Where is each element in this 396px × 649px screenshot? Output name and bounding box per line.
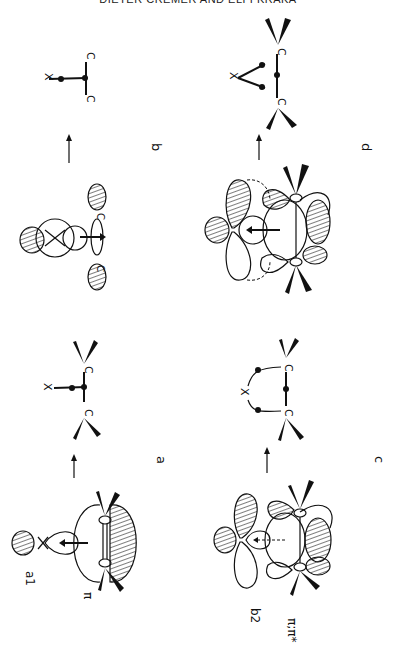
- atom-c: [99, 559, 111, 567]
- panel-label-c: c: [372, 456, 387, 463]
- panel-d-orbitals: [205, 164, 330, 294]
- reaction-arrow: [264, 447, 270, 473]
- panel-c: b2 π;π* X C C c: [214, 338, 387, 643]
- pi-lobe-hatched: [110, 505, 136, 582]
- atom-c: C: [82, 409, 95, 417]
- panel-label-a: a: [154, 456, 169, 464]
- panel-b-orbitals: C C: [20, 184, 106, 290]
- atom-c: C: [275, 98, 288, 106]
- x-b2-lobe-hatched: [234, 494, 257, 538]
- c-lobe-hatched: [268, 501, 294, 519]
- atom-c: C: [84, 95, 97, 103]
- panel-d: X C C d: [205, 18, 374, 294]
- panel-c-structure: X C C: [238, 338, 304, 441]
- reaction-arrow: [256, 134, 262, 160]
- atom-c: C: [95, 213, 106, 220]
- reaction-arrow: [71, 454, 77, 478]
- c-back-lobe: [88, 264, 106, 290]
- orbital-label-a1: a1: [23, 571, 37, 586]
- c-lobe-hatched: [303, 246, 327, 264]
- panel-a-structure: X C C: [41, 340, 101, 440]
- atom-c: [294, 509, 306, 517]
- x-p-lobe: [226, 232, 250, 280]
- pi-star-lobe-hatched: [306, 200, 330, 244]
- x-back-lobe: [12, 531, 34, 555]
- c-back-lobe: [88, 184, 106, 210]
- orbital-label-pi: π: [81, 592, 95, 599]
- atom-c: [99, 516, 111, 524]
- atom-c: [294, 563, 306, 571]
- x-back-lobe: [20, 227, 44, 253]
- atom-c: C: [282, 409, 295, 417]
- orbital-label-b2: b2: [248, 608, 262, 623]
- atom-c: C: [84, 52, 97, 60]
- c-lobe-hatched: [306, 557, 330, 575]
- reaction-arrow: [66, 134, 72, 163]
- panel-c-orbitals: [214, 480, 332, 596]
- c-lobe-hatched: [263, 190, 290, 209]
- c-lobe: [267, 562, 292, 578]
- x-back-lobe: [214, 527, 236, 553]
- pi-star-lobe-hatched: [305, 518, 331, 562]
- panel-label-d: d: [359, 143, 374, 151]
- panel-b: C C X C C b: [20, 52, 164, 290]
- x-back-lobe: [205, 217, 229, 243]
- atom-x: X: [41, 383, 54, 391]
- orbital-figure: C C X C C b: [0, 0, 396, 649]
- atom-x: X: [238, 388, 251, 396]
- atom-c: [290, 194, 302, 202]
- x-b2-lobe: [234, 542, 257, 588]
- panel-label-b: b: [149, 143, 164, 151]
- atom-c: C: [275, 48, 288, 56]
- panel-d-structure: X C C: [227, 18, 297, 130]
- atom-c: [290, 258, 302, 266]
- panel-b-structure: X C C: [42, 52, 97, 103]
- panel-a: a1 π X C C a: [12, 340, 169, 599]
- x-p-lobe-hatched: [226, 180, 250, 228]
- c-lobe: [261, 255, 288, 273]
- orbital-label-pi-pi-star: π;π*: [285, 618, 299, 643]
- atom-c: C: [82, 366, 95, 374]
- atom-c: C: [282, 364, 295, 372]
